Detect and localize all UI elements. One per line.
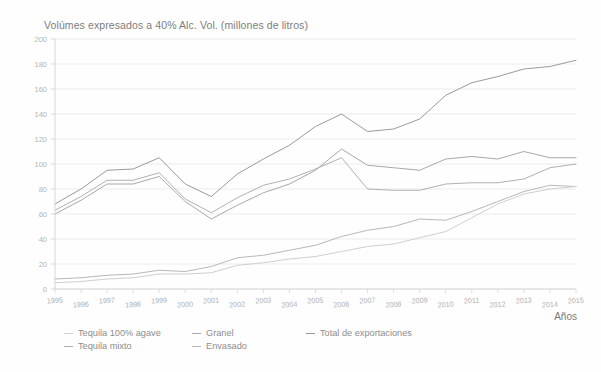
legend-item-label: Tequila 100% agave bbox=[78, 327, 161, 340]
legend-item[interactable]: Tequila 100% agave bbox=[64, 327, 161, 340]
y-axis-tick-label: 160 bbox=[34, 85, 47, 94]
x-axis-tick-label: 2015 bbox=[568, 295, 585, 305]
x-axis-tick-label: 1998 bbox=[125, 299, 142, 309]
x-axis-tick-label: 2000 bbox=[177, 299, 194, 309]
x-axis-ticks-group: 1995199619971998199920002001200220032004… bbox=[47, 289, 585, 310]
line-chart-svg: 020406080100120140160180200 199519961997… bbox=[0, 0, 601, 372]
x-axis-tick-label: 2014 bbox=[541, 299, 558, 309]
x-axis-tick-label: 1996 bbox=[73, 299, 90, 309]
legend-item-label: Tequila mixto bbox=[78, 340, 132, 353]
x-axis-tick-label: 2008 bbox=[385, 299, 402, 309]
chart-page: Volúmes expresados a 40% Alc. Vol. (mill… bbox=[0, 0, 601, 372]
x-axis-tick-label: 2002 bbox=[229, 299, 246, 309]
y-axis-tick-label: 140 bbox=[34, 110, 47, 119]
x-axis-tick-label: 1995 bbox=[47, 295, 64, 305]
x-axis-tick-label: 2011 bbox=[464, 295, 480, 305]
x-axis-tick-label: 1999 bbox=[151, 295, 168, 305]
x-axis-tick-label: 2004 bbox=[281, 299, 298, 309]
legend-line-icon bbox=[192, 333, 201, 334]
x-axis-tick-label: 2003 bbox=[255, 295, 272, 305]
x-axis-tick-label: 1997 bbox=[99, 295, 116, 305]
x-axis-tick-label: 2013 bbox=[515, 295, 532, 305]
series-line bbox=[55, 187, 576, 283]
x-axis-tick-label: 2012 bbox=[489, 299, 506, 309]
x-axis-tick-label: 2009 bbox=[411, 295, 428, 305]
legend-line-icon bbox=[306, 333, 315, 334]
legend-item[interactable]: Granel bbox=[192, 327, 247, 340]
legend-item-label: Granel bbox=[206, 327, 234, 340]
y-axis-tick-label: 80 bbox=[39, 185, 47, 194]
legend-item[interactable]: Total de exportaciones bbox=[306, 327, 412, 340]
y-axis-tick-label: 0 bbox=[43, 285, 47, 294]
y-axis-tick-label: 200 bbox=[34, 35, 47, 44]
x-axis-tick-label: 2007 bbox=[359, 295, 376, 305]
series-line bbox=[55, 185, 576, 279]
x-axis-tick-label: 2001 bbox=[203, 295, 220, 305]
y-axis-ticks-group: 020406080100120140160180200 bbox=[34, 35, 55, 294]
y-axis-tick-label: 180 bbox=[34, 60, 47, 69]
legend-column-3: Total de exportaciones bbox=[306, 327, 412, 340]
legend-item-label: Envasado bbox=[206, 340, 247, 353]
series-line bbox=[55, 149, 576, 219]
legend-line-icon bbox=[64, 333, 73, 334]
y-axis-tick-label: 20 bbox=[39, 260, 47, 269]
y-axis-tick-label: 120 bbox=[34, 135, 47, 144]
data-series-group bbox=[55, 60, 576, 283]
x-axis-tick-label: 2005 bbox=[307, 295, 324, 305]
chart-plot-area: 020406080100120140160180200 199519961997… bbox=[0, 0, 601, 372]
y-axis-tick-label: 100 bbox=[34, 160, 47, 169]
legend-line-icon bbox=[64, 346, 73, 347]
legend-item[interactable]: Tequila mixto bbox=[64, 340, 161, 353]
legend-item[interactable]: Envasado bbox=[192, 340, 247, 353]
y-axis-tick-label: 60 bbox=[39, 210, 47, 219]
legend-column-1: Tequila 100% agave Tequila mixto bbox=[64, 327, 161, 353]
legend-column-2: Granel Envasado bbox=[192, 327, 247, 353]
y-axis-tick-label: 40 bbox=[39, 235, 47, 244]
legend-item-label: Total de exportaciones bbox=[320, 327, 412, 340]
x-axis-tick-label: 2006 bbox=[333, 299, 350, 309]
x-axis-tick-label: 2010 bbox=[437, 299, 454, 309]
legend-line-icon bbox=[192, 346, 201, 347]
x-axis-title: Años bbox=[554, 311, 577, 322]
